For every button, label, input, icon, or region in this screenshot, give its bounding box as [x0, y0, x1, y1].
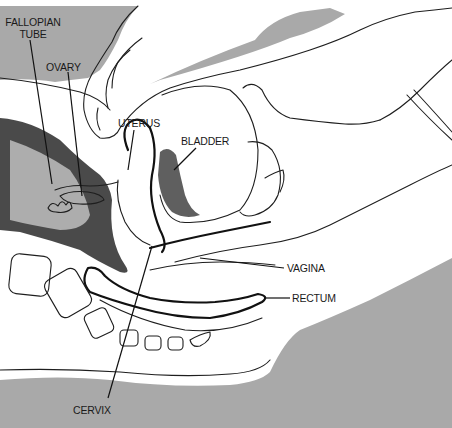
vertebra-5: [145, 336, 161, 350]
lower-hand-lower-edge: [175, 165, 452, 262]
wristband-2: [414, 90, 452, 132]
label-fallopian-tube-line2: TUBE: [5, 28, 61, 40]
background-bottom: [0, 258, 452, 428]
lower-hand-wrist: [380, 60, 452, 120]
uterus-outline: [124, 120, 164, 252]
wristband: [407, 95, 452, 140]
lower-hand-fingers: [240, 142, 280, 216]
label-cervix: CERVIX: [73, 404, 111, 416]
coccyx-curve: [0, 360, 270, 376]
label-rectum: RECTUM: [292, 292, 336, 304]
label-bladder: BLADDER: [181, 135, 229, 147]
upper-hand-finger: [106, 50, 130, 108]
lower-hand-knuckle: [265, 170, 284, 192]
label-vagina: VAGINA: [287, 262, 325, 274]
leader-bladder: [174, 148, 196, 170]
leader-vagina: [200, 258, 284, 268]
lower-hand-thumb: [243, 84, 380, 124]
vertebra-3: [83, 306, 116, 340]
label-uterus: UTERUS: [118, 117, 160, 129]
label-fallopian-tube: FALLOPIAN TUBE: [5, 16, 61, 40]
label-ovary: OVARY: [46, 61, 81, 73]
rectum-outline: [84, 268, 265, 318]
abdominal-wall-outline: [0, 78, 110, 110]
uterus-inner: [117, 180, 150, 245]
vertebra-4: [120, 330, 138, 346]
upper-hand-nail: [97, 108, 100, 130]
upper-hand-finger-2: [112, 38, 142, 88]
vertebra-7: [190, 332, 210, 346]
vagina-upper-wall: [150, 222, 270, 248]
vertebra-6: [168, 337, 183, 350]
label-fallopian-tube-line1: FALLOPIAN: [5, 16, 61, 28]
background-top-middle: [150, 8, 345, 84]
vagina-lower-wall: [150, 262, 275, 270]
